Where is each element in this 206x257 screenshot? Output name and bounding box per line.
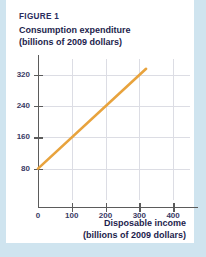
figure-label: FIGURE 1	[19, 12, 59, 21]
consumption-function-line	[38, 69, 146, 169]
x-axis-caption-line1: Disposable income	[83, 218, 186, 230]
x-axis-tick-label: 0	[23, 211, 53, 220]
x-axis-caption-line2: (billions of 2009 dollars)	[83, 230, 186, 242]
y-axis-tick-label: 240	[0, 101, 30, 110]
series-layer	[38, 59, 190, 200]
x-axis-caption: Disposable income (billions of 2009 doll…	[83, 218, 186, 241]
figure-card: FIGURE 1 Consumption expenditure (billio…	[6, 0, 194, 243]
y-axis-tick-label: 320	[0, 70, 30, 79]
y-axis-tick-label: 160	[0, 132, 30, 141]
plot-area: 801602403200100200300400	[38, 59, 190, 200]
figure-title-line1: Consumption expenditure	[19, 25, 131, 37]
figure-title-line2: (billions of 2009 dollars)	[19, 37, 131, 49]
figure-title: Consumption expenditure (billions of 200…	[19, 25, 131, 48]
y-axis-tick-label: 80	[0, 164, 30, 173]
